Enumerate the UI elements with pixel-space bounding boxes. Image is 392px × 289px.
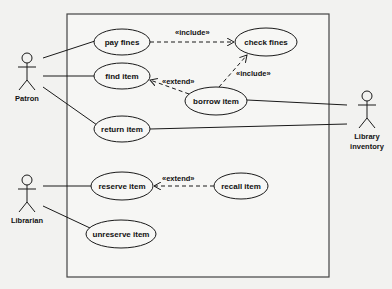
use-case-find-item[interactable]: find item xyxy=(94,63,150,89)
include-label-1: «include» xyxy=(175,28,210,37)
use-case-label: borrow item xyxy=(193,97,239,106)
use-case-return-item[interactable]: return item xyxy=(94,116,150,142)
stick-figure-icon xyxy=(18,175,36,212)
use-case-label: reserve item xyxy=(98,182,145,191)
actor-label: Patron xyxy=(15,94,39,103)
use-case-unreserve-item[interactable]: unreserve item xyxy=(86,220,156,248)
extend-label-2: «extend» xyxy=(162,174,195,183)
use-case-label: return item xyxy=(101,125,143,134)
actor-label: Librarian xyxy=(11,216,44,225)
use-case-pay-fines[interactable]: pay fines xyxy=(94,29,150,55)
actor-library-inventory[interactable]: Library inventory xyxy=(350,91,385,151)
use-case-label: unreserve item xyxy=(93,230,150,239)
use-case-check-fines[interactable]: check fines xyxy=(235,28,297,56)
actor-label-line-2: inventory xyxy=(350,142,385,151)
include-label-2: «include» xyxy=(236,69,271,78)
stick-figure-icon xyxy=(358,91,376,128)
actor-patron[interactable]: Patron xyxy=(15,53,39,103)
use-case-borrow-item[interactable]: borrow item xyxy=(185,87,247,115)
actor-label-line-1: Library xyxy=(354,132,380,141)
use-case-reserve-item[interactable]: reserve item xyxy=(91,172,153,200)
use-case-recall-item[interactable]: recall item xyxy=(214,173,268,199)
use-case-label: pay fines xyxy=(105,38,140,47)
stick-figure-icon xyxy=(18,53,36,90)
actor-librarian[interactable]: Librarian xyxy=(11,175,44,225)
use-case-label: check fines xyxy=(244,38,288,47)
extend-label-1: «extend» xyxy=(162,77,195,86)
use-case-label: recall item xyxy=(221,182,261,191)
use-case-diagram: «include» «include» «extend» «extend» pa… xyxy=(0,0,392,289)
use-case-label: find item xyxy=(105,72,138,81)
